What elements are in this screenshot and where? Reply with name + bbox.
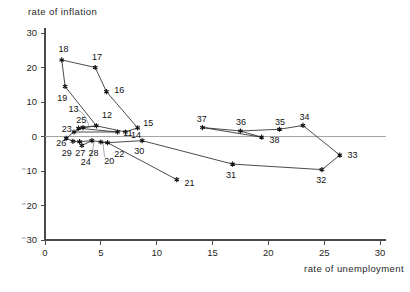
x-tick-label: 25 bbox=[319, 247, 330, 258]
x-axis-title: rate of unemployment bbox=[304, 263, 404, 274]
point-label-33: 33 bbox=[348, 150, 358, 160]
x-tick-label: 20 bbox=[263, 247, 274, 258]
point-label-19: 19 bbox=[57, 93, 67, 103]
chart-container: ⁻30⁻20⁻100102030 051015202530 rate of in… bbox=[0, 0, 410, 292]
point-label-21: 21 bbox=[185, 178, 195, 188]
segment-37-38 bbox=[202, 128, 261, 138]
x-tick-label: 15 bbox=[207, 247, 218, 258]
y-tick-label: 20 bbox=[26, 62, 37, 73]
point-label-38: 38 bbox=[269, 135, 279, 145]
point-label-23: 23 bbox=[62, 124, 72, 134]
point-label-12: 12 bbox=[102, 110, 112, 120]
point-label-28: 28 bbox=[89, 148, 99, 158]
point-label-16: 16 bbox=[114, 85, 124, 95]
y-axis-ticks: ⁻30⁻20⁻100102030 bbox=[21, 27, 45, 245]
point-marker-21 bbox=[175, 177, 180, 182]
point-label-20: 20 bbox=[104, 156, 114, 166]
point-label-32: 32 bbox=[316, 175, 326, 185]
x-tick-label: 30 bbox=[375, 247, 386, 258]
point-label-14: 14 bbox=[131, 130, 141, 140]
segment-18-19 bbox=[62, 60, 65, 87]
x-tick-label: 0 bbox=[42, 247, 47, 258]
x-tick-label: 5 bbox=[98, 247, 103, 258]
point-label-29: 29 bbox=[62, 148, 72, 158]
point-label-34: 34 bbox=[300, 112, 310, 122]
point-label-15: 15 bbox=[143, 118, 153, 128]
y-tick-label: ⁻20 bbox=[21, 200, 37, 211]
x-axis-ticks: 051015202530 bbox=[42, 240, 385, 258]
point-label-13: 13 bbox=[68, 104, 78, 114]
point-label-24: 24 bbox=[81, 157, 91, 167]
y-tick-label: 10 bbox=[26, 96, 37, 107]
point-label-27: 27 bbox=[75, 148, 85, 158]
y-tick-label: 0 bbox=[32, 131, 37, 142]
segment-30-31-32-33 bbox=[142, 141, 340, 170]
point-label-36: 36 bbox=[236, 117, 246, 127]
point-label-25: 25 bbox=[76, 115, 86, 125]
y-tick-label: ⁻10 bbox=[21, 165, 37, 176]
y-tick-label: ⁻30 bbox=[21, 234, 37, 245]
point-label-30: 30 bbox=[134, 146, 144, 156]
segment-18-17-16-15 bbox=[62, 60, 138, 128]
point-label-37: 37 bbox=[197, 114, 207, 124]
data-point-labels: 1112131415161718192021222324252627282930… bbox=[56, 44, 357, 187]
point-label-17: 17 bbox=[92, 52, 102, 62]
y-tick-label: 30 bbox=[26, 27, 37, 38]
scatter-chart: ⁻30⁻20⁻100102030 051015202530 rate of in… bbox=[0, 0, 410, 292]
x-tick-label: 10 bbox=[151, 247, 162, 258]
point-label-35: 35 bbox=[275, 117, 285, 127]
y-axis-title: rate of inflation bbox=[28, 6, 97, 17]
point-label-18: 18 bbox=[58, 44, 68, 54]
point-label-31: 31 bbox=[226, 170, 236, 180]
point-label-22: 22 bbox=[114, 149, 124, 159]
